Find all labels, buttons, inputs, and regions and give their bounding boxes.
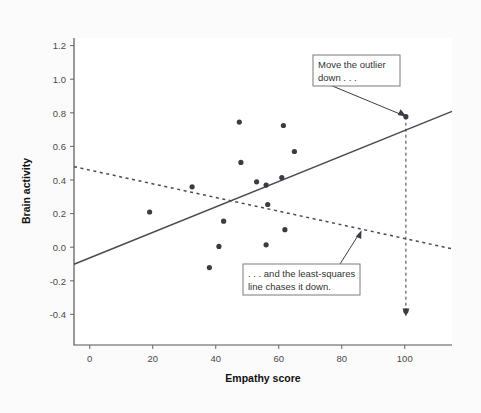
data-point-outlier-low <box>403 308 408 313</box>
data-point <box>238 160 243 165</box>
xtick-label-80: 80 <box>336 353 347 364</box>
data-point <box>281 123 286 128</box>
data-point <box>147 209 152 214</box>
callout-bottom[interactable]: . . . and the least-squares line chases … <box>243 264 360 295</box>
xtick-label-40: 40 <box>210 353 221 364</box>
ytick-label-neg0_4: -0.4 <box>50 309 66 320</box>
xtick-label-100: 100 <box>397 353 413 364</box>
data-point <box>292 149 297 154</box>
data-point <box>221 219 226 224</box>
ytick-label-neg0_2: -0.2 <box>50 276 66 287</box>
ytick-label-0_6: 0.6 <box>53 141 66 152</box>
xtick-label-60: 60 <box>273 353 284 364</box>
chart-canvas: 1.2 1.0 0.8 0.6 0.4 0.2 0.0 -0.2 -0.4 0 … <box>0 0 481 413</box>
callout-top-line1: Move the outlier <box>318 59 386 70</box>
data-point <box>264 183 269 188</box>
callout-top[interactable]: Move the outlier down . . . <box>313 55 400 86</box>
data-point <box>254 179 259 184</box>
data-point <box>279 175 284 180</box>
ytick-label-0_2: 0.2 <box>53 208 66 219</box>
callout-top-line2: down . . . <box>318 72 357 83</box>
callout-bottom-line1: . . . and the least-squares <box>248 268 355 279</box>
ytick-label-1_2: 1.2 <box>53 40 66 51</box>
data-point <box>207 265 212 270</box>
x-axis-title: Empathy score <box>225 372 300 384</box>
xtick-label-0: 0 <box>87 353 92 364</box>
ytick-label-0_0: 0.0 <box>53 242 66 253</box>
ytick-label-0_8: 0.8 <box>53 108 66 119</box>
data-point <box>216 244 221 249</box>
scatter-plot-figure: 1.2 1.0 0.8 0.6 0.4 0.2 0.0 -0.2 -0.4 0 … <box>0 0 481 413</box>
callout-bottom-line2: line chases it down. <box>248 281 331 292</box>
data-point <box>264 242 269 247</box>
ytick-label-1_0: 1.0 <box>53 74 66 85</box>
ytick-label-0_4: 0.4 <box>53 175 66 186</box>
data-point <box>265 202 270 207</box>
data-point <box>190 184 195 189</box>
y-axis-title: Brain activity <box>20 158 32 224</box>
data-point <box>282 227 287 232</box>
data-point <box>237 120 242 125</box>
xtick-label-20: 20 <box>147 353 158 364</box>
